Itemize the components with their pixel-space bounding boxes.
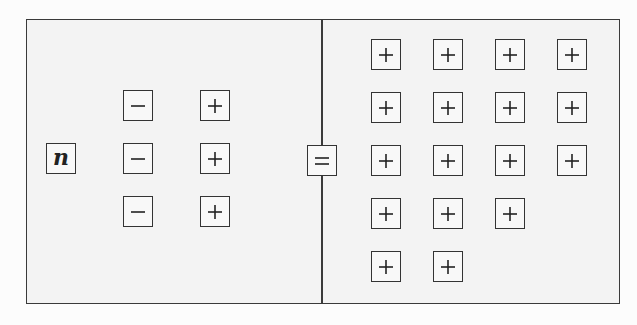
plus-icon [439,99,457,117]
positive-tile [495,92,525,123]
plus-icon [377,99,395,117]
plus-icon [377,152,395,170]
plus-icon [206,97,224,115]
positive-tile [557,92,587,123]
plus-icon [439,258,457,276]
plus-icon [501,46,519,64]
negative-tile [123,143,153,174]
plus-icon [439,46,457,64]
minus-icon [129,203,147,221]
equals-icon [313,152,331,170]
plus-icon [377,205,395,223]
plus-icon [501,99,519,117]
positive-tile [371,39,401,70]
positive-tile [557,145,587,176]
positive-tile [495,145,525,176]
positive-tile [371,251,401,282]
equals-tile [307,145,337,176]
positive-tile [557,39,587,70]
plus-icon [206,203,224,221]
positive-tile [433,251,463,282]
positive-tile [433,198,463,229]
positive-tile [200,196,230,227]
positive-tile [433,39,463,70]
minus-icon [129,150,147,168]
plus-icon [563,99,581,117]
plus-icon [206,150,224,168]
plus-icon [439,152,457,170]
plus-icon [501,152,519,170]
plus-icon [377,46,395,64]
negative-tile [123,196,153,227]
plus-icon [563,46,581,64]
positive-tile [371,92,401,123]
positive-tile [495,198,525,229]
positive-tile [433,145,463,176]
positive-tile [371,145,401,176]
negative-tile [123,90,153,121]
positive-tile [200,143,230,174]
plus-icon [377,258,395,276]
positive-tile [495,39,525,70]
minus-icon [129,97,147,115]
plus-icon [563,152,581,170]
plus-icon [439,205,457,223]
positive-tile [371,198,401,229]
positive-tile [200,90,230,121]
variable-tile-n: n [46,143,76,174]
positive-tile [433,92,463,123]
plus-icon [501,205,519,223]
